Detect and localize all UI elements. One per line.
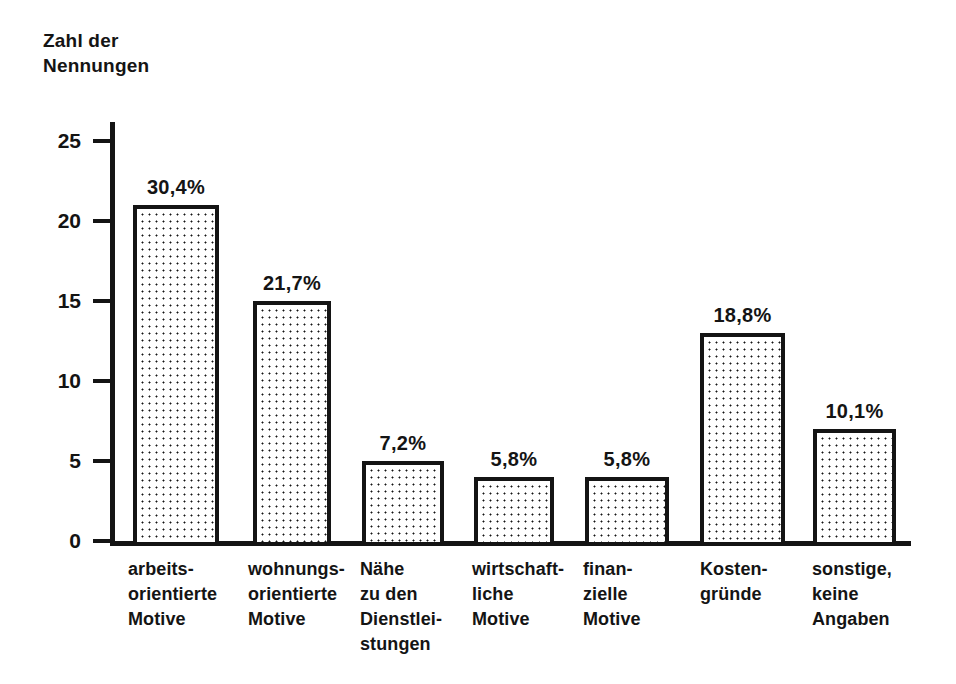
category-label-4: wirtschaft- liche Motive bbox=[472, 557, 564, 632]
category-label-2: wohnungs- orientierte Motive bbox=[248, 557, 345, 632]
y-tick-mark-5 bbox=[93, 459, 111, 463]
y-tick-mark-0 bbox=[93, 539, 111, 543]
bar-6 bbox=[700, 333, 785, 546]
bar-4 bbox=[474, 477, 554, 546]
y-tick-mark-10 bbox=[93, 379, 111, 383]
category-label-7: sonstige, keine Angaben bbox=[812, 557, 892, 632]
bar-value-label-2: 21,7% bbox=[233, 273, 351, 293]
y-tick-mark-25 bbox=[93, 139, 111, 143]
bar-value-label-1: 30,4% bbox=[113, 177, 239, 197]
bar-5 bbox=[585, 477, 669, 546]
bar-2 bbox=[253, 301, 331, 546]
bar-value-label-3: 7,2% bbox=[342, 433, 464, 453]
category-label-1: arbeits- orientierte Motive bbox=[128, 557, 217, 632]
y-tick-mark-20 bbox=[93, 219, 111, 223]
y-tick-label-10: 10 bbox=[41, 370, 81, 391]
category-label-6: Kosten- gründe bbox=[700, 557, 768, 607]
bar-1 bbox=[133, 205, 219, 546]
category-label-5: finan- zielle Motive bbox=[583, 557, 641, 632]
y-tick-label-5: 5 bbox=[41, 450, 81, 471]
bar-value-label-5: 5,8% bbox=[565, 449, 689, 469]
bar-value-label-6: 18,8% bbox=[680, 305, 805, 325]
y-tick-label-15: 15 bbox=[41, 290, 81, 311]
bar-chart: Zahl der Nennungen 25 20 15 10 5 0 bbox=[0, 0, 956, 684]
y-tick-label-20: 20 bbox=[41, 210, 81, 231]
y-tick-mark-15 bbox=[93, 299, 111, 303]
plot-area: 25 20 15 10 5 0 30,4%arbeits- orientiert… bbox=[0, 0, 956, 684]
bar-value-label-4: 5,8% bbox=[454, 449, 574, 469]
bar-value-label-7: 10,1% bbox=[793, 401, 916, 421]
y-tick-label-25: 25 bbox=[41, 130, 81, 151]
category-label-3: Nähe zu den Dienstlei- stungen bbox=[360, 557, 442, 657]
bar-7 bbox=[813, 429, 896, 546]
y-tick-label-0: 0 bbox=[41, 530, 81, 551]
bar-3 bbox=[362, 461, 444, 546]
